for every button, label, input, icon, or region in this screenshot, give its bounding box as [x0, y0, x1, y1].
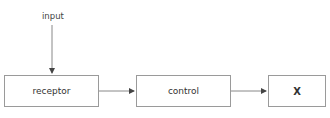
control-node: control [136, 75, 231, 107]
x-node: X [268, 75, 326, 107]
receptor-node: receptor [4, 75, 99, 107]
x-label: X [293, 86, 301, 97]
input-label: input [42, 11, 64, 21]
receptor-label: receptor [33, 86, 71, 96]
control-label: control [168, 86, 199, 96]
